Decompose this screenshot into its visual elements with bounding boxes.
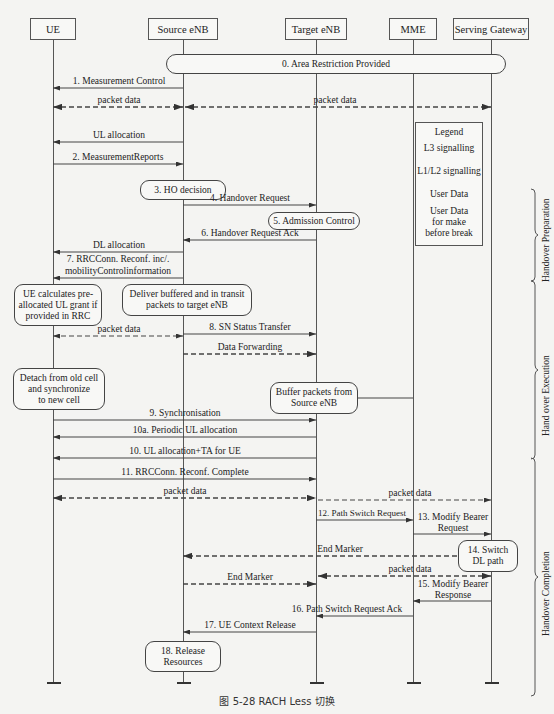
msg-ul-allocation: UL allocation	[60, 130, 178, 141]
msg-15-modify-bearer-response-2: Response	[415, 590, 491, 601]
legend: Legend L3 signalling L1/L2 signalling Us…	[415, 122, 483, 246]
legend-mbb-line3: before break	[416, 228, 482, 239]
msg-packet-data-target-sgw: packet data	[360, 488, 460, 499]
note-line: and synchronize	[28, 384, 90, 395]
msg-7-rrc-reconf-line2: mobilityControlinformation	[55, 266, 181, 277]
step-18-release-resources: 18. Release Resources	[145, 641, 221, 672]
note-line: 14. Switch	[468, 545, 509, 556]
note-line: UE calculates pre-	[23, 289, 93, 300]
msg-6-handover-request-ack: 6. Handover Request Ack	[190, 228, 310, 239]
note-line: Resources	[163, 657, 202, 668]
note-line: provided in RRC	[26, 311, 91, 322]
msg-7-rrc-reconf-line1: 7. RRCConn. Reconf. inc/.	[55, 254, 181, 265]
msg-13-modify-bearer-request-2: Request	[415, 523, 491, 534]
msg-packet-data-target-sgw-2: packet data	[360, 564, 460, 575]
msg-10a-periodic-ul: 10a. Periodic UL allocation	[60, 425, 310, 436]
note-line: Buffer packets from	[276, 387, 352, 398]
msg-end-marker-source-target: End Marker	[200, 572, 300, 583]
msg-10-ul-allocation-ta: 10. UL allocation+TA for UE	[60, 446, 310, 457]
figure-caption: 图 5-28 RACH Less 切换	[0, 693, 554, 708]
msg-2-measurement-reports: 2. MeasurementReports	[55, 152, 181, 163]
msg-13-modify-bearer-request-1: 13. Modify Bearer	[415, 512, 491, 523]
msg-8-sn-status-transfer: 8. SN Status Transfer	[190, 322, 310, 333]
msg-4-handover-request: 4. Handover Request	[190, 193, 310, 204]
note-line: Deliver buffered and in transit	[130, 289, 245, 300]
legend-l1l2-signalling: L1/L2 signalling	[416, 166, 482, 177]
sequence-diagram: UE Source eNB Target eNB MME Serving Gat…	[0, 0, 554, 714]
msg-packet-data-source-sgw: packet data	[270, 95, 400, 106]
phase-handover-execution: Hand over Execution	[541, 355, 551, 436]
arrows-layer	[0, 0, 554, 714]
step-14-switch-dl-path: 14. Switch DL path	[458, 540, 518, 572]
legend-mbb-line2: for make	[416, 217, 482, 228]
note-detach-old-cell: Detach from old cell and synchronize to …	[13, 368, 105, 410]
note-line: 18. Release	[161, 646, 205, 657]
note-line: DL path	[472, 556, 503, 567]
note-line: packets to target eNB	[146, 300, 228, 311]
msg-data-forwarding: Data Forwarding	[190, 342, 310, 353]
msg-16-path-switch-ack: 16. Path Switch Request Ack	[280, 604, 414, 615]
legend-mbb-line1: User Data	[416, 206, 482, 217]
msg-12-path-switch-request: 12. Path Switch Request	[318, 508, 412, 519]
msg-packet-data-ue-source: packet data	[60, 95, 178, 106]
legend-title: Legend	[416, 127, 482, 138]
msg-11-rrc-complete: 11. RRCConn. Reconf. Complete	[60, 467, 310, 478]
msg-packet-data-ue-source-2: packet data	[60, 324, 178, 335]
msg-end-marker-sgw-source: End Marker	[300, 544, 380, 555]
note-line: Detach from old cell	[20, 373, 98, 384]
note-line: to new cell	[38, 395, 80, 406]
msg-dl-allocation: DL allocation	[60, 240, 178, 251]
step-0-area-restriction: 0. Area Restriction Provided	[166, 54, 506, 74]
note-line: allocated UL grant if	[18, 300, 97, 311]
msg-17-ue-context-release: 17. UE Context Release	[190, 620, 310, 631]
msg-15-modify-bearer-response-1: 15. Modify Bearer	[415, 579, 491, 590]
note-deliver-buffered: Deliver buffered and in transit packets …	[122, 284, 252, 316]
legend-l3-signalling: L3 signalling	[416, 143, 482, 154]
phase-handover-preparation: Handover Preparation	[541, 198, 551, 282]
msg-9-synchronisation: 9. Synchronisation	[60, 408, 310, 419]
note-ue-calculates: UE calculates pre- allocated UL grant if…	[14, 284, 102, 326]
legend-user-data: User Data	[416, 189, 482, 200]
phase-handover-completion: Handover Completion	[541, 551, 551, 636]
msg-1-measurement-control: 1. Measurement Control	[60, 76, 178, 87]
msg-packet-data-ue-target: packet data	[60, 486, 310, 497]
